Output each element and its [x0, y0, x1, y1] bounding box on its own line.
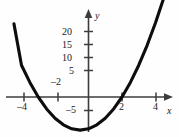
- y-tick-label-minus-5: –5: [66, 105, 76, 115]
- y-axis-label: y: [95, 11, 99, 21]
- x-tick-label-2: 2: [119, 102, 124, 112]
- graph-figure: 20 15 10 5 –5 –4 –2 2 4 y x: [0, 0, 179, 137]
- x-tick-label-minus-2: –2: [51, 77, 61, 87]
- parabola-curve: [14, 0, 172, 130]
- y-tick-label-10: 10: [62, 53, 72, 63]
- y-tick-label-20: 20: [62, 27, 72, 37]
- x-tick-label-minus-4: –4: [17, 102, 27, 112]
- x-axis: [6, 93, 173, 101]
- y-tick-label-15: 15: [62, 40, 72, 50]
- x-tick-label-4: 4: [153, 102, 158, 112]
- x-axis-label: x: [167, 106, 171, 116]
- y-tick-label-5: 5: [69, 66, 74, 76]
- coordinate-plane-svg: [0, 0, 179, 137]
